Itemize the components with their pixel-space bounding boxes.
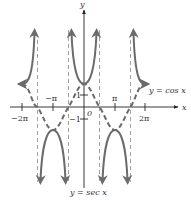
sec-branch-right	[134, 33, 146, 84]
tick-label-1: 1	[76, 91, 81, 100]
sec-cos-graph: y x −2π −π π 2π 1 −1 0 y = cos x y = sec…	[0, 0, 191, 202]
origin-label: 0	[87, 109, 92, 118]
sec-branch-left	[22, 33, 35, 84]
tick-label-pi: π	[112, 94, 117, 103]
sec-curve	[22, 33, 145, 180]
y-axis-label: y	[79, 0, 85, 9]
tick-label-neg-2pi: −2π	[11, 114, 28, 123]
sec-curve-label: y = sec x	[69, 188, 107, 197]
tick-label-2pi: 2π	[139, 114, 149, 123]
x-axis-label: x	[182, 103, 187, 112]
tick-label-neg-pi: −π	[45, 94, 57, 103]
sec-branch-lower-left	[41, 130, 66, 180]
cos-curve-label: y = cos x	[148, 86, 186, 95]
tick-label-neg-1: −1	[69, 115, 81, 124]
sec-branch-lower-right	[103, 130, 128, 180]
